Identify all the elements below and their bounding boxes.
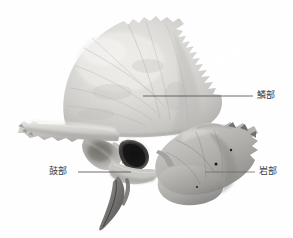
annotation-leader-lines xyxy=(0,0,293,238)
temporal-bone-figure: 鱗部 鼓部 岩部 xyxy=(0,0,293,238)
annotation-label-petrous-part: 岩部 xyxy=(259,166,278,176)
annotation-label-tympanic-part: 鼓部 xyxy=(49,166,68,176)
annotation-label-squamous-part: 鱗部 xyxy=(257,90,276,100)
